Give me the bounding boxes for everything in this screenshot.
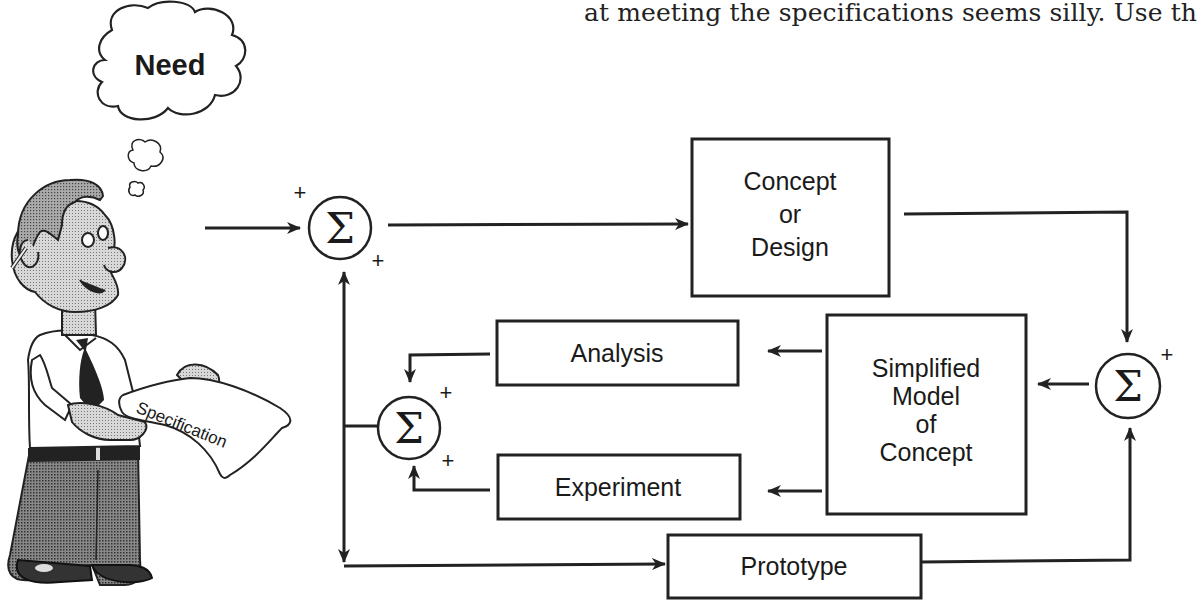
concept-label-line2: or	[779, 200, 801, 228]
sigma-icon: Σ	[325, 204, 355, 253]
thought-puff-large	[128, 140, 163, 171]
plus-sign: +	[442, 448, 455, 473]
sum-to-concept-arrow	[388, 224, 688, 225]
analysis-block: Analysis	[497, 321, 738, 385]
sigma-icon: Σ	[1113, 362, 1143, 411]
plus-sign: +	[440, 380, 453, 405]
model-label-line2: Model	[892, 382, 960, 410]
experiment-block: Experiment	[498, 455, 740, 519]
summing-junction-inner: Σ + +	[378, 380, 454, 473]
thought-puff-small	[129, 182, 144, 197]
model-label-line3: of	[916, 410, 937, 438]
analysis-label: Analysis	[570, 339, 663, 367]
thought-bubble: Need	[93, 2, 245, 197]
model-label-line1: Simplified	[872, 354, 980, 382]
summing-junction-right: Σ +	[1096, 342, 1173, 418]
concept-label-line1: Concept	[743, 167, 836, 195]
prototype-block: Prototype	[668, 535, 921, 598]
summing-junction-main: Σ + +	[294, 180, 385, 273]
to-prototype-arrow	[344, 564, 665, 566]
plus-sign: +	[294, 180, 307, 205]
concept-block: Concept or Design	[692, 139, 889, 296]
experiment-label: Experiment	[555, 473, 681, 501]
sigma-icon: Σ	[394, 404, 424, 453]
need-label: Need	[135, 49, 206, 81]
plus-sign: +	[1161, 342, 1174, 367]
plus-sign: +	[372, 248, 385, 273]
concept-label-line3: Design	[751, 233, 829, 261]
model-label-line4: Concept	[879, 438, 972, 466]
engineer-illustration: Specification	[8, 180, 290, 585]
analysis-to-inner-sum-arrow	[410, 354, 490, 382]
simplified-model-block: Simplified Model of Concept	[827, 315, 1026, 514]
prototype-label: Prototype	[740, 552, 847, 580]
